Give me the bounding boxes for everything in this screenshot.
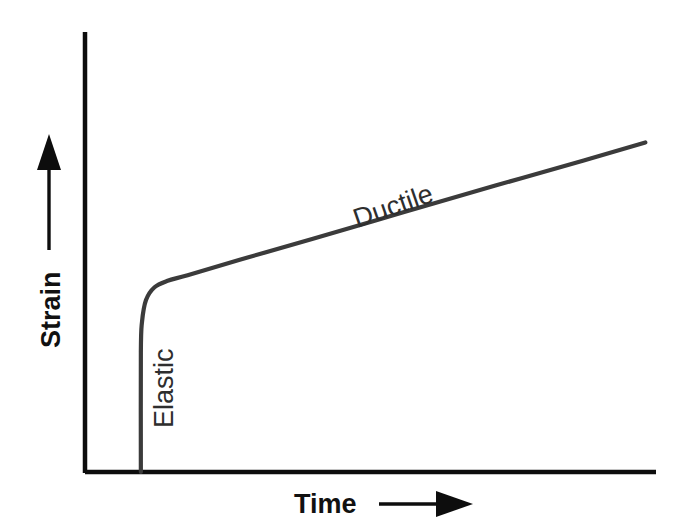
y-axis-label: Strain [36, 271, 66, 348]
annotation-ductile: Ductile [349, 178, 437, 233]
chart-canvas: Strain Elastic Ductile Time [0, 0, 683, 527]
creep-strain-figure: Strain Elastic Ductile Time [0, 0, 683, 527]
arrow-right-icon [379, 491, 473, 517]
arrow-up-icon [37, 134, 61, 250]
x-axis-label: Time [294, 489, 357, 519]
annotation-elastic: Elastic [149, 348, 179, 428]
